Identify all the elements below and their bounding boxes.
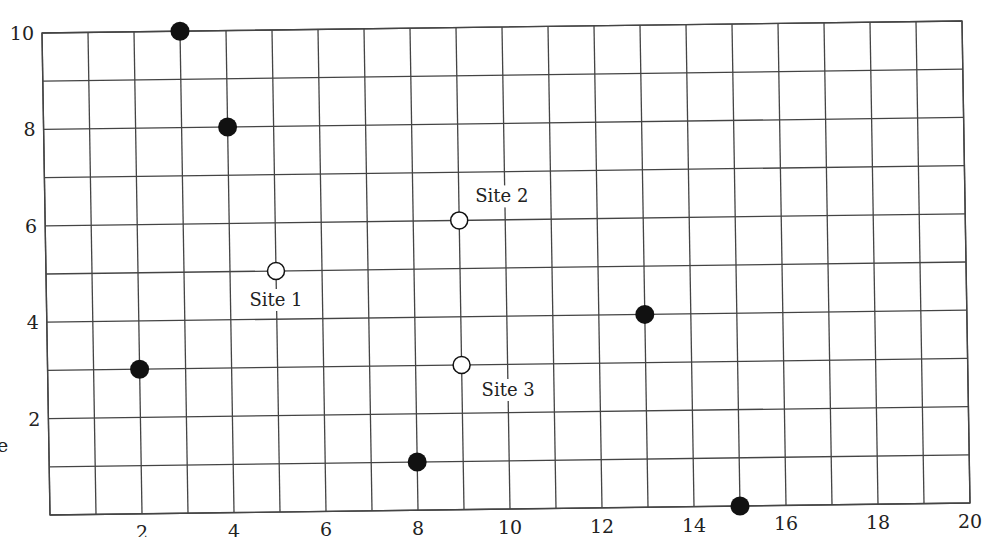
- y-tick-label: 4: [27, 311, 39, 333]
- site-label: Site 2: [475, 185, 528, 206]
- y-tick-label: 2: [28, 408, 40, 430]
- filled-point-marker: [218, 118, 237, 137]
- y-tick-label: 10: [10, 22, 34, 44]
- x-tick-label: 8: [412, 517, 424, 537]
- site-label: Site 3: [482, 379, 535, 400]
- x-tick-label: 10: [498, 516, 522, 537]
- site-point-marker: [453, 357, 470, 374]
- scatter-chart: 2468101214161820 246810 Site 1Site 2Site…: [0, 0, 982, 537]
- filled-point-marker: [731, 497, 750, 516]
- site-point-marker: [268, 263, 285, 280]
- x-tick-label: 6: [320, 518, 332, 537]
- y-axis-ticks: 246810: [10, 22, 41, 430]
- x-tick-label: 12: [590, 515, 614, 537]
- grid-lines: [42, 21, 970, 515]
- filled-point-marker: [130, 360, 149, 379]
- x-tick-label: 18: [866, 511, 890, 533]
- site-label: Site 1: [249, 289, 302, 310]
- site-point-marker: [451, 212, 468, 229]
- site-labels: Site 1Site 2Site 3: [245, 185, 542, 401]
- x-tick-label: 2: [136, 521, 148, 537]
- x-tick-label: 4: [228, 520, 240, 537]
- x-tick-label: 14: [682, 514, 706, 536]
- filled-point-marker: [635, 305, 654, 324]
- x-tick-label: 20: [958, 510, 982, 532]
- y-tick-label: 6: [25, 215, 37, 237]
- filled-point-marker: [171, 22, 190, 41]
- clipped-edge-text: e: [0, 434, 8, 456]
- x-tick-label: 16: [774, 512, 798, 534]
- filled-point-marker: [408, 453, 427, 472]
- x-axis-ticks: 2468101214161820: [136, 510, 982, 537]
- y-tick-label: 8: [24, 118, 36, 140]
